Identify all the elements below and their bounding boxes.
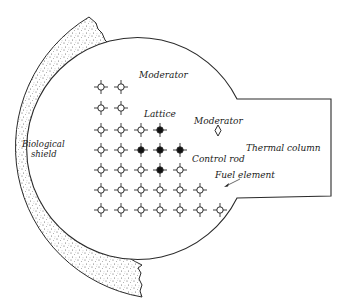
label-fuel-element: Fuel element <box>214 170 275 180</box>
label-thermal-column: Thermal column <box>246 143 321 153</box>
label-lattice: Lattice <box>143 109 176 119</box>
label-moderator-right: Moderator <box>193 116 243 126</box>
label-moderator-top: Moderator <box>138 70 188 80</box>
reactor-diagram: Moderator Lattice Moderator Thermal colu… <box>0 0 342 303</box>
label-biological-shield-1: Biological <box>21 139 65 149</box>
label-biological-shield-2: shield <box>31 149 57 159</box>
label-control-rod: Control rod <box>192 154 245 164</box>
